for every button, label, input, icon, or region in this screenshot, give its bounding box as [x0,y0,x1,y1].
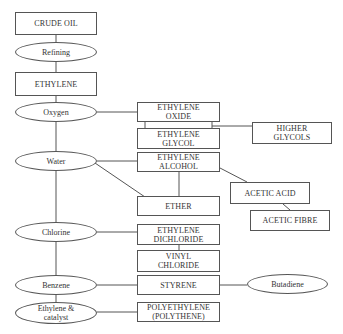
polyethylene-label: POLYETHYLENE (POLYTHENE) [147,303,210,321]
ethylene-catalyst-label: Ethylene & catalyst [38,304,75,322]
higher-glycols-box: HIGHER GLYCOLS [252,122,332,144]
oxygen-label: Oxygen [43,108,68,117]
ether-box: ETHER [137,196,220,216]
ethylene-catalyst-ellipse: Ethylene & catalyst [15,302,97,324]
oxygen-ellipse: Oxygen [15,102,97,122]
ethylene-oxide-box: ETHYLENE OXIDE [137,102,220,122]
polyethylene-box: POLYETHYLENE (POLYTHENE) [137,302,220,322]
styrene-label: STYRENE [160,281,197,290]
higher-glycols-label: HIGHER GLYCOLS [274,124,311,142]
acetic-acid-box: ACETIC ACID [230,182,310,204]
ethylene-alcohol-label: ETHYLENE ALCOHOL [157,153,200,171]
acetic-acid-label: ACETIC ACID [244,189,295,198]
vinyl-chloride-box: VINYL CHLORIDE [137,250,220,272]
ethylene-box: ETHYLENE [15,72,97,96]
styrene-box: STYRENE [137,275,220,295]
acetic-fibre-label: ACETIC FIBRE [263,216,318,225]
ethylene-label: ETHYLENE [35,80,78,89]
ethylene-dichloride-box: ETHYLENE DICHLORIDE [137,224,220,245]
ethylene-dichloride-label: ETHYLENE DICHLORIDE [154,226,204,244]
crude-oil-box: CRUDE OIL [15,12,97,35]
benzene-ellipse: Benzene [15,275,97,295]
refining-label: Refining [42,48,70,57]
water-label: Water [47,157,66,166]
benzene-label: Benzene [42,281,70,290]
butadiene-ellipse: Butadiene [247,274,328,294]
ethylene-oxide-label: ETHYLENE OXIDE [157,103,200,121]
refining-ellipse: Refining [15,42,97,62]
ethylene-alcohol-box: ETHYLENE ALCOHOL [137,152,220,172]
chlorine-label: Chlorine [42,228,70,237]
vinyl-chloride-label: VINYL CHLORIDE [158,252,199,270]
water-ellipse: Water [15,151,97,171]
acetic-fibre-box: ACETIC FIBRE [250,210,330,231]
ethylene-glycol-box: ETHYLENE GLYCOL [137,128,220,149]
butadiene-label: Butadiene [271,280,303,289]
chlorine-ellipse: Chlorine [15,222,97,242]
ether-label: ETHER [165,202,191,211]
crude-oil-label: CRUDE OIL [34,19,77,28]
ethylene-glycol-label: ETHYLENE GLYCOL [157,130,200,148]
